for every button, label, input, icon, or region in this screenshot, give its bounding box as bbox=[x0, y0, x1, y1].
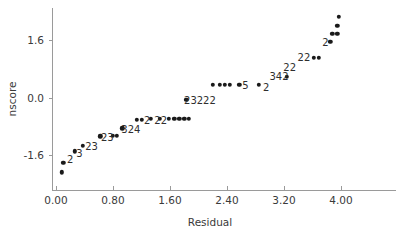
x-tick-mark bbox=[170, 186, 171, 190]
data-point bbox=[337, 14, 341, 18]
overlap-count-label: 2 bbox=[144, 114, 150, 125]
overlap-count-label: 2 bbox=[263, 82, 269, 93]
data-point bbox=[335, 23, 339, 27]
x-tick-mark bbox=[227, 186, 228, 190]
data-point bbox=[335, 32, 339, 36]
x-tick-label: 3.20 bbox=[272, 194, 295, 206]
data-point bbox=[134, 118, 138, 122]
data-point bbox=[61, 161, 65, 165]
data-point bbox=[237, 82, 241, 86]
data-point bbox=[257, 82, 261, 86]
x-tick-mark bbox=[341, 186, 342, 190]
x-tick-label: 4.00 bbox=[329, 194, 352, 206]
data-point bbox=[218, 82, 222, 86]
data-point bbox=[228, 82, 232, 86]
y-axis-line bbox=[52, 8, 53, 190]
data-point bbox=[330, 32, 334, 36]
data-point bbox=[312, 55, 316, 59]
overlap-count-label: 324 bbox=[121, 124, 140, 135]
data-point bbox=[186, 117, 190, 121]
x-axis-title: Residual bbox=[188, 216, 232, 228]
overlap-count-label: 23 bbox=[85, 141, 98, 152]
overlap-count-label: 2 bbox=[67, 154, 73, 165]
overlap-count-label: 22 bbox=[298, 52, 311, 63]
y-tick-label: 1.6 bbox=[27, 34, 44, 46]
y-tick-label: 0.0 bbox=[27, 92, 44, 104]
data-point bbox=[114, 134, 118, 138]
x-tick-label: 1.60 bbox=[158, 194, 181, 206]
overlap-count-label: 22 bbox=[283, 62, 296, 73]
x-tick-label: 0.00 bbox=[44, 194, 67, 206]
overlap-count-label: 22 bbox=[154, 114, 167, 125]
x-tick-mark bbox=[56, 186, 57, 190]
data-point bbox=[177, 117, 181, 121]
data-point bbox=[59, 170, 63, 174]
x-tick-label: 0.80 bbox=[101, 194, 124, 206]
x-axis-line bbox=[52, 190, 396, 191]
y-tick-mark bbox=[49, 98, 53, 99]
overlap-count-label: 23 bbox=[101, 131, 114, 142]
x-tick-mark bbox=[113, 186, 114, 190]
data-point bbox=[211, 82, 215, 86]
y-tick-mark bbox=[49, 40, 53, 41]
y-axis-title: nscore bbox=[6, 82, 18, 117]
scatter-plot-figure: 0.000.801.602.403.204.00 1.60.0-1.6 2323… bbox=[0, 0, 399, 236]
x-tick-mark bbox=[284, 186, 285, 190]
overlap-count-label: 23222 bbox=[184, 95, 216, 106]
data-point bbox=[317, 55, 321, 59]
overlap-count-label: 2 bbox=[322, 37, 328, 48]
y-tick-mark bbox=[49, 155, 53, 156]
data-point bbox=[172, 117, 176, 121]
overlap-count-label: 5 bbox=[242, 79, 248, 90]
data-point bbox=[223, 82, 227, 86]
x-tick-label: 2.40 bbox=[215, 194, 238, 206]
overlap-count-label: 3 bbox=[76, 148, 82, 159]
data-point bbox=[328, 40, 332, 44]
y-tick-label: -1.6 bbox=[24, 149, 45, 161]
